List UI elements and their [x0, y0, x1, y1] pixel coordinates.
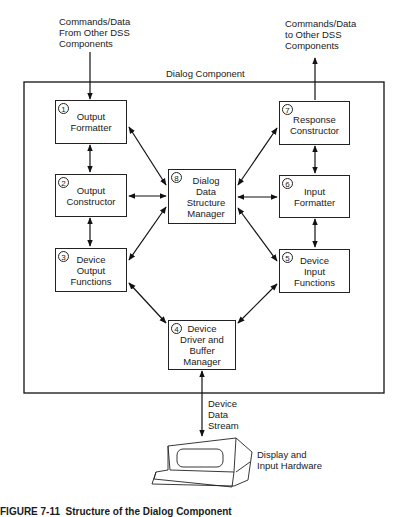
box-label: Input Formatter	[280, 186, 349, 208]
output-commands-label: Commands/Data to Other DSS Components	[285, 18, 356, 51]
box-input-formatter: 6 Input Formatter	[279, 175, 350, 218]
box-dialog-data-structure-manager: 8 Dialog Data Structure Manager	[168, 169, 236, 224]
box-device-input-functions: 5 Device Input Functions	[279, 249, 350, 293]
box-label: Output Constructor	[56, 185, 126, 207]
box-output-formatter: 1 Output Formatter	[55, 100, 127, 144]
box-label: Output Formatter	[56, 111, 126, 133]
box-label: Device Driver and Buffer Manager	[169, 323, 235, 367]
box-device-driver-buffer-manager: 4 Device Driver and Buffer Manager	[168, 320, 236, 370]
box-device-output-functions: 3 Device Output Functions	[55, 248, 127, 292]
box-label: Device Input Functions	[280, 255, 349, 288]
box-label: Device Output Functions	[56, 254, 126, 287]
box-response-constructor: 7 Response Constructor	[279, 101, 350, 145]
container-title: Dialog Component	[166, 68, 245, 79]
terminal-icon	[152, 438, 252, 487]
hardware-label: Display and Input Hardware	[257, 449, 322, 471]
box-label: Dialog Data Structure Manager	[177, 175, 235, 219]
device-data-stream-label: Device Data Stream	[208, 398, 239, 431]
box-output-constructor: 2 Output Constructor	[55, 174, 127, 217]
figure-caption: FIGURE 7-11 Structure of the Dialog Comp…	[0, 506, 232, 517]
box-label: Response Constructor	[280, 114, 349, 136]
input-commands-label: Commands/Data From Other DSS Components	[59, 16, 130, 49]
